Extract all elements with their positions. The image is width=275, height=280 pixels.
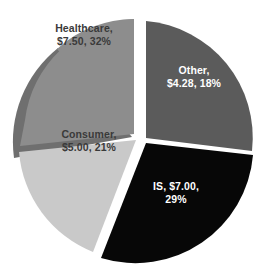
pie-label-healthcare: Healthcare, $7.50, 32% (32, 22, 136, 48)
pie-label-is-line1: IS, $7.00, (130, 180, 222, 193)
pie-label-healthcare-line2: $7.50, 32% (32, 35, 136, 48)
pie-label-consumer: Consumer, $5.00, 21% (40, 128, 138, 154)
pie-label-other-line1: Other, (146, 64, 242, 77)
pie-chart: Other, $4.28, 18% IS, $7.00, 29% Consume… (0, 0, 275, 280)
pie-label-healthcare-line1: Healthcare, (32, 22, 136, 35)
pie-label-consumer-line2: $5.00, 21% (40, 141, 138, 154)
pie-label-other: Other, $4.28, 18% (146, 64, 242, 90)
pie-label-other-line2: $4.28, 18% (146, 77, 242, 90)
pie-label-is: IS, $7.00, 29% (130, 180, 222, 206)
pie-label-is-line2: 29% (130, 193, 222, 206)
pie-label-consumer-line1: Consumer, (40, 128, 138, 141)
